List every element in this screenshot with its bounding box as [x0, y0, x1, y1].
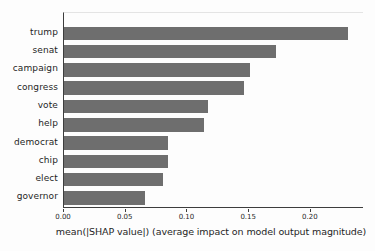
y-tick-label-vote: vote: [0, 100, 58, 111]
bar-elect: [64, 173, 163, 187]
bar-senat: [64, 45, 276, 59]
y-tick-label-governor: governor: [0, 191, 58, 202]
x-tick-label: 0.00: [46, 213, 80, 221]
y-tick-label-trump: trump: [0, 27, 58, 38]
y-tick-label-campaign: campaign: [0, 63, 58, 74]
bar-chip: [64, 155, 168, 169]
bar-democrat: [64, 136, 168, 150]
x-tick-label: 0.05: [108, 213, 142, 221]
bar-governor: [64, 191, 145, 205]
x-axis-label: mean(|SHAP value|) (average impact on mo…: [47, 226, 375, 237]
y-tick-label-help: help: [0, 118, 58, 129]
bar-vote: [64, 100, 208, 114]
bar-trump: [64, 27, 348, 41]
bar-help: [64, 118, 204, 132]
x-tick-label: 0.20: [293, 213, 327, 221]
x-tick-mark: [248, 209, 249, 212]
plot-area: [63, 12, 363, 208]
y-tick-label-chip: chip: [0, 155, 58, 166]
x-tick-mark: [186, 209, 187, 212]
bar-campaign: [64, 63, 250, 77]
bar-congress: [64, 81, 244, 95]
y-tick-label-congress: congress: [0, 82, 58, 93]
x-tick-mark: [125, 209, 126, 212]
shap-importance-bar-chart: trumpsenatcampaigncongressvotehelpdemocr…: [0, 0, 375, 251]
x-tick-label: 0.10: [169, 213, 203, 221]
x-tick-mark: [310, 209, 311, 212]
y-tick-label-democrat: democrat: [0, 137, 58, 148]
y-tick-label-elect: elect: [0, 173, 58, 184]
x-tick-mark: [63, 209, 64, 212]
y-tick-label-senat: senat: [0, 45, 58, 56]
x-tick-label: 0.15: [231, 213, 265, 221]
